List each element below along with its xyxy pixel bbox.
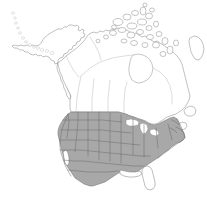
distribution-map-figure: North America distribution map bbox=[0, 0, 207, 209]
north-america-map bbox=[0, 0, 207, 209]
